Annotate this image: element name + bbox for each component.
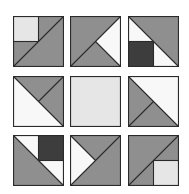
quilt-tile-t2 — [70, 16, 121, 67]
quilt-tile-t8 — [70, 135, 121, 186]
quilt-block-grid — [13, 16, 179, 186]
quilt-tile-t7 — [13, 135, 64, 186]
quilt-tile-t1 — [13, 16, 64, 67]
quilt-tile-t9 — [128, 135, 179, 186]
quilt-tile-t4 — [13, 76, 64, 127]
quilt-tile-t6 — [128, 76, 179, 127]
quilt-tile-t3 — [128, 16, 179, 67]
quilt-tile-t5 — [70, 76, 121, 127]
